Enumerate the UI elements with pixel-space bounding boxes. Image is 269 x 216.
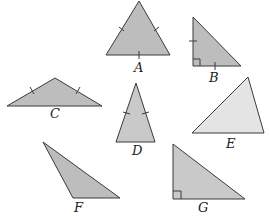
triangle-e-shape bbox=[192, 77, 264, 133]
triangle-a-shape bbox=[106, 1, 170, 55]
triangle-c: C bbox=[7, 78, 102, 121]
triangle-f: F bbox=[43, 142, 120, 215]
label-g: G bbox=[198, 200, 208, 215]
triangle-a: A bbox=[106, 1, 170, 75]
triangle-f-shape bbox=[43, 142, 120, 198]
label-d: D bbox=[131, 143, 143, 158]
label-e: E bbox=[225, 136, 236, 151]
triangle-g-shape bbox=[173, 144, 245, 199]
label-b: B bbox=[208, 70, 219, 85]
triangle-c-shape bbox=[7, 78, 102, 106]
triangle-d: D bbox=[116, 83, 155, 158]
label-c: C bbox=[50, 106, 60, 121]
triangles-figure: A B C D E F G bbox=[0, 0, 269, 216]
triangle-e: E bbox=[192, 77, 264, 151]
triangle-g: G bbox=[173, 144, 245, 215]
triangle-d-shape bbox=[116, 83, 155, 142]
label-f: F bbox=[73, 200, 84, 215]
label-a: A bbox=[133, 60, 143, 75]
triangle-b: B bbox=[189, 17, 241, 85]
